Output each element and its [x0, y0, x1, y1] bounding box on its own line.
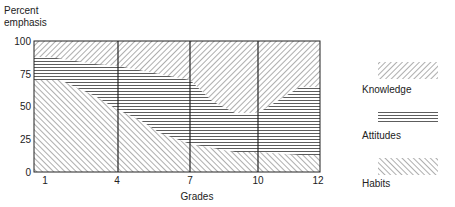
plot-area: [34, 41, 320, 172]
x-axis: 1 4 7 10 12: [42, 175, 324, 186]
y-tick-50: 50: [20, 101, 32, 112]
legend-label-habits: Habits: [362, 178, 390, 189]
y-tick-25: 25: [20, 134, 32, 145]
y-axis-label-2: emphasis: [4, 17, 47, 28]
y-tick-75: 75: [20, 69, 32, 80]
y-axis-label: Percent: [4, 5, 39, 16]
y-tick-100: 100: [14, 36, 31, 47]
x-tick-1: 1: [42, 175, 48, 186]
x-axis-label: Grades: [181, 191, 214, 202]
x-tick-12: 12: [312, 175, 324, 186]
legend-swatch-attitudes: [378, 110, 438, 124]
legend-swatch-habits: [378, 158, 438, 175]
y-axis: 100 75 50 25 0: [14, 36, 31, 178]
chart: Percent emphasis 100 75 50 25 0 1 4 7 10…: [0, 0, 455, 207]
x-tick-7: 7: [187, 175, 193, 186]
legend-label-knowledge: Knowledge: [362, 84, 412, 95]
legend: Knowledge Attitudes Habits: [362, 62, 438, 189]
legend-swatch-knowledge: [378, 62, 438, 79]
x-tick-10: 10: [252, 175, 264, 186]
y-tick-0: 0: [25, 167, 31, 178]
x-tick-4: 4: [114, 175, 120, 186]
legend-label-attitudes: Attitudes: [362, 130, 401, 141]
